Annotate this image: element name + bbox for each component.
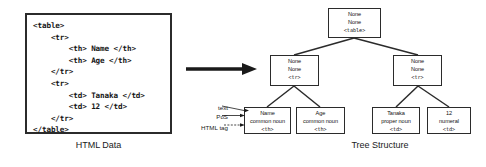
node-pos: None (271, 66, 318, 74)
node-tag: <tr> (394, 74, 441, 82)
tree-structure-diagram: None None <table> None None <tr> None No… (180, 0, 486, 167)
tree-node-tr-2: None None <tr> (393, 55, 442, 86)
html-data-box: <table> <tr> <th> Name </th> <th> Age </… (25, 13, 172, 134)
node-text: Tanaka (373, 110, 419, 118)
tree-node-tr-1: None None <tr> (270, 55, 319, 86)
node-text: None (394, 58, 441, 66)
tree-node-th-age: Age common noun <th> (296, 107, 345, 134)
node-tag: <td> (373, 126, 419, 134)
annotation-label-html-tag: HTML tag (180, 124, 228, 131)
annotation-label-pos: PoS (188, 113, 228, 120)
node-text: 12 (428, 110, 470, 118)
node-text: None (329, 11, 380, 19)
tree-node-td-12: 12 numeral <td> (427, 107, 471, 134)
node-tag: <td> (428, 126, 470, 134)
node-tag: <th> (297, 126, 344, 134)
html-data-caption: HTML Data (25, 140, 172, 150)
annotation-label-text: text (188, 104, 228, 111)
html-source-code: <table> <tr> <th> Name </th> <th> Age </… (27, 15, 170, 136)
node-tag: <tr> (271, 74, 318, 82)
node-tag: <table> (329, 27, 380, 35)
tree-node-td-tanaka: Tanaka proper noun <td> (372, 107, 420, 134)
node-text: None (271, 58, 318, 66)
tree-structure-caption: Tree Structure (320, 140, 440, 150)
node-pos: proper noun (373, 118, 419, 126)
tree-node-table: None None <table> (328, 8, 381, 38)
node-pos: numeral (428, 118, 470, 126)
node-pos: None (394, 66, 441, 74)
node-pos: common noun (297, 118, 344, 126)
node-pos: None (329, 19, 380, 27)
node-text: Age (297, 110, 344, 118)
